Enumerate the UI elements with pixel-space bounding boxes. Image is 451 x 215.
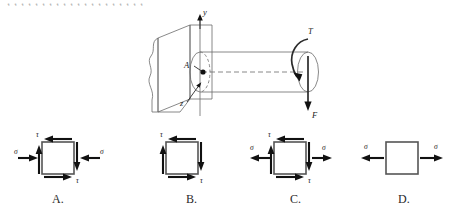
option-d-label: D. [398, 192, 410, 207]
option-a-sigma-right: σ [100, 147, 104, 156]
torque-label: T [308, 26, 314, 36]
option-b-label: B. [186, 192, 197, 207]
axis-y-label: y [202, 7, 207, 17]
option-c-sigma-left: σ [250, 143, 254, 152]
option-a-label: A. [52, 192, 64, 207]
axis-z-label: z [179, 98, 184, 108]
option-c-sigma-right: σ [322, 143, 326, 152]
option-a-tau-bottom: τ [76, 176, 79, 185]
point-a-marker [200, 69, 205, 74]
clipped-header-text: ，，，，，，，，，，，，，，，，，，，， [6, 0, 446, 6]
option-a-sigma-left: σ [14, 147, 18, 156]
point-a-label: A [183, 60, 190, 70]
stress-element-a: τ τ σ σ [14, 128, 106, 188]
option-d-sigma-right: σ [434, 142, 438, 151]
cantilever-shaft-diagram: y A z T F [140, 8, 325, 120]
stress-element-c: τ τ σ σ [246, 128, 338, 188]
force-label: F [311, 110, 318, 120]
option-c-label: C. [290, 192, 301, 207]
option-c-tau-bottom: τ [308, 176, 311, 185]
option-a-tau-top: τ [36, 130, 39, 139]
option-b-tau-bottom: τ [200, 176, 203, 185]
option-b-tau-top: τ [160, 130, 163, 139]
stress-element-d: σ σ [356, 128, 448, 188]
option-d-sigma-left: σ [364, 142, 368, 151]
figure-canvas: ，，，，，，，，，，，，，，，，，，，， y A z [0, 0, 451, 215]
stress-element-b: τ τ [150, 128, 230, 188]
option-c-tau-top: τ [268, 130, 271, 139]
